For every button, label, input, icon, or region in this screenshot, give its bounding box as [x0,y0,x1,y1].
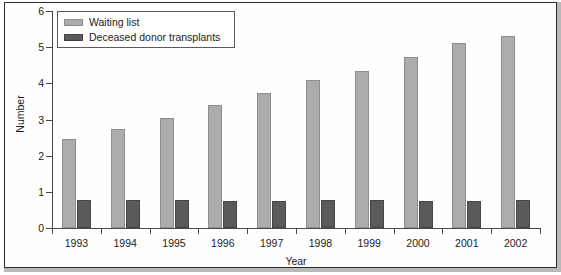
legend-swatch-icon-deceased-donor-transplants [64,34,83,41]
bar-2002-series-1 [516,200,530,228]
x-axis-tick-mark [247,228,248,234]
y-axis-tick-label: 0 [0,223,44,233]
bar-1993-series-1 [77,200,91,228]
y-axis-tick-mark [46,83,52,84]
bar-1997-series-0 [257,93,271,228]
x-axis-tick-mark [296,228,297,234]
x-axis-title: Year [52,255,540,267]
x-axis-tick-mark [345,228,346,234]
legend-entry-deceased-donor-transplants: Deceased donor transplants [64,30,220,44]
bar-1995-series-1 [175,200,189,228]
bar-1997-series-1 [272,201,286,228]
bar-2000-series-0 [404,57,418,228]
y-axis-tick-label: 5 [0,42,44,52]
y-axis-tick-mark [46,11,52,12]
bar-1999-series-1 [370,200,384,228]
y-axis-tick-label: 1 [0,187,44,197]
x-axis-tick-mark [52,228,53,234]
legend-entry-waiting-list: Waiting list [64,15,139,29]
bar-1996-series-0 [208,105,222,228]
y-axis-tick-label: 6 [0,6,44,16]
bar-1998-series-1 [321,200,335,228]
bar-1995-series-0 [160,118,174,228]
legend-label-waiting-list: Waiting list [89,16,139,28]
y-axis-title: Number [14,74,26,154]
bar-1994-series-1 [126,200,140,228]
bar-2002-series-0 [501,36,515,228]
bar-1993-series-0 [62,139,76,228]
x-axis-tick-mark [101,228,102,234]
x-axis-tick-mark [394,228,395,234]
bar-1994-series-0 [111,129,125,228]
y-axis-tick-mark [46,120,52,121]
y-axis-tick-label-text: 1 [4,187,44,197]
x-axis-tick-mark [150,228,151,234]
x-axis-tick-mark [540,228,541,234]
chart-legend: Waiting list Deceased donor transplants [57,11,235,48]
bar-2000-series-1 [419,201,433,228]
x-axis-tick-mark [442,228,443,234]
legend-swatch-icon-waiting-list [64,19,83,26]
legend-label-deceased-donor-transplants: Deceased donor transplants [89,31,220,43]
y-axis-tick-label-text: 6 [4,6,44,16]
bar-2001-series-0 [452,43,466,228]
bar-1996-series-1 [223,201,237,228]
y-axis-tick-mark [46,47,52,48]
x-axis-tick-mark [491,228,492,234]
y-axis-line [52,11,53,229]
bar-1998-series-0 [306,80,320,228]
y-axis-tick-mark [46,192,52,193]
y-axis-tick-label-text: 0 [4,223,44,233]
y-axis-tick-label-text: 5 [4,42,44,52]
y-axis-tick-mark [46,156,52,157]
x-axis-tick-mark [198,228,199,234]
x-axis-tick-label: 2002 [486,237,546,249]
chart-screenshot: 0123456 19931994199519961997199819992000… [0,0,561,275]
bar-1999-series-0 [355,71,369,228]
bar-2001-series-1 [467,201,481,228]
